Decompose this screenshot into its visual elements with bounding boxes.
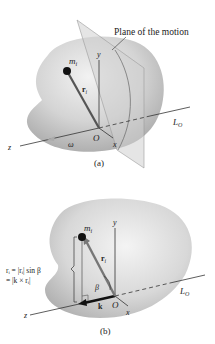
rigid-body-diagram: Plane of the motion mi ri y x z O ω LO (… — [0, 0, 215, 344]
y-label-a: y — [96, 50, 101, 59]
formula-line-1: rᵢ = |rᵢ| sin β — [6, 266, 41, 275]
formula-line-2: = |k × rᵢ| — [6, 276, 31, 285]
caption-b: (b) — [100, 326, 111, 336]
y-label-b: y — [112, 218, 117, 227]
origin-label-b: O — [112, 300, 119, 310]
figure-b: mi ri y x z O k β LO rᵢ = |rᵢ| sin β = |… — [6, 199, 205, 336]
k-label: k — [98, 302, 103, 311]
z-label-b: z — [23, 311, 28, 320]
plane-label: Plane of the motion — [114, 27, 189, 37]
x-label-b: x — [125, 308, 130, 317]
mass-point-a — [63, 67, 71, 75]
mass-point-b — [78, 233, 86, 241]
lo-label-b: LO — [179, 286, 190, 297]
x-label-a: x — [112, 140, 117, 149]
caption-a: (a) — [94, 158, 104, 168]
omega-label: ω — [68, 140, 74, 149]
lo-label-a: LO — [172, 117, 183, 128]
beta-label: β — [94, 283, 99, 292]
z-label-a: z — [7, 143, 12, 152]
figure-a: Plane of the motion mi ri y x z O ω LO (… — [7, 20, 190, 168]
origin-label-a: O — [93, 133, 100, 143]
